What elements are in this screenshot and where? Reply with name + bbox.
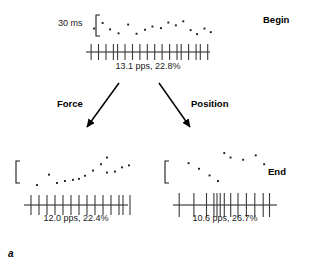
- interval-dot: [190, 29, 192, 31]
- arrow-label-force: Force: [57, 98, 83, 109]
- interval-dot: [78, 178, 80, 180]
- interval-dot: [48, 174, 50, 176]
- stage-label-begin: Begin: [263, 14, 289, 25]
- interval-dot: [223, 152, 225, 154]
- interval-dot: [36, 184, 38, 186]
- interval-dot: [196, 33, 198, 35]
- interval-dot: [121, 166, 123, 168]
- scale-bracket-icon-position: [165, 161, 169, 183]
- arrow-label-position: Position: [191, 98, 228, 109]
- interval-dot: [152, 26, 154, 28]
- end-force-panel-graphic: [6, 133, 151, 223]
- arrow-position-icon: [159, 83, 190, 127]
- interval-dot: [128, 164, 130, 166]
- interval-dot: [198, 168, 200, 170]
- interval-dot: [114, 171, 116, 173]
- interval-dot: [255, 154, 257, 156]
- interval-dot: [242, 159, 244, 161]
- scale-bracket-icon-force: [16, 161, 20, 183]
- interval-dot: [92, 170, 94, 172]
- interval-dot: [167, 22, 169, 24]
- interval-dot: [230, 157, 232, 159]
- interval-dot: [64, 180, 66, 182]
- interval-dot: [56, 182, 58, 184]
- interval-dot: [188, 162, 190, 164]
- interval-dot: [136, 33, 138, 35]
- interval-dot: [109, 28, 111, 30]
- interval-dot-series-end-force: [36, 157, 130, 186]
- scale-bracket-icon: [96, 15, 100, 36]
- raster-panel-end-force: 12.0 pps, 22.4%: [6, 133, 151, 223]
- interval-dot: [102, 22, 104, 24]
- interval-dot: [72, 179, 74, 181]
- rate-label-end-force: 12.0 pps, 22.4%: [20, 213, 132, 223]
- interval-dot: [160, 27, 162, 29]
- interval-dot: [84, 175, 86, 177]
- panel-letter: a: [8, 248, 14, 259]
- interval-dot: [182, 20, 184, 22]
- interval-dot: [106, 157, 108, 159]
- interval-dot: [93, 28, 95, 30]
- interval-dot: [217, 180, 219, 182]
- interval-dot: [210, 31, 212, 33]
- rate-label-end-position: 10.6 pps, 26.7%: [169, 213, 281, 223]
- arrow-force-icon: [87, 83, 119, 127]
- interval-dot-series-end-position: [188, 152, 266, 182]
- interval-dot: [127, 24, 129, 26]
- rate-label-begin: 13.1 pps, 22.8%: [86, 61, 210, 71]
- interval-dot: [144, 29, 146, 31]
- figure-panel-a: 30 ms 13.1 pps, 22.8% Begin Force Positi…: [0, 0, 317, 271]
- interval-dot: [106, 172, 108, 174]
- interval-dot: [175, 24, 177, 26]
- interval-dot: [209, 175, 211, 177]
- raster-panel-end-position: 10.6 pps, 26.7%: [155, 133, 300, 223]
- interval-dot: [118, 32, 120, 34]
- interval-dot: [100, 163, 102, 165]
- stage-label-end: End: [268, 166, 286, 177]
- interval-dot: [263, 163, 265, 165]
- interval-dot-series-begin: [93, 20, 212, 35]
- end-position-panel-graphic: [155, 133, 300, 223]
- interval-dot: [204, 28, 206, 30]
- raster-panel-begin: 30 ms 13.1 pps, 22.8%: [58, 6, 258, 72]
